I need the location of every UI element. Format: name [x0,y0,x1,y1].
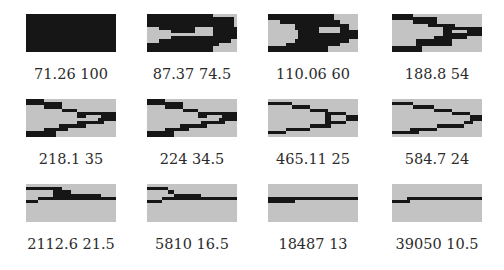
material-block [268,197,295,203]
figure-panel: 224 34.5 [141,99,261,185]
material-block [62,197,101,200]
material-block [213,17,234,20]
figure-panel: 87.37 74.5 [141,14,261,100]
material-block [26,131,56,137]
material-block [183,109,198,112]
material-block [443,33,482,36]
material-block [62,190,71,193]
material-block [44,102,62,108]
material-block [280,20,340,23]
panel-caption: 110.06 60 [252,66,374,82]
material-block [101,197,116,200]
design-domain [26,184,116,222]
material-block [268,131,286,134]
material-block [147,200,162,203]
design-domain [392,14,482,52]
material-block [392,46,422,52]
design-domain [268,99,358,137]
void-hole [159,30,171,40]
figure-panel: 5810 16.5 [141,184,261,270]
material-block [295,197,358,200]
figure-panel: 71.26 100 [20,14,140,100]
panel-caption: 39050 10.5 [376,236,498,252]
material-block [325,112,331,125]
material-block [286,43,340,46]
design-domain [147,14,237,52]
panel-caption: 2112.6 21.5 [10,236,132,252]
figure-panel: 2112.6 21.5 [20,184,140,270]
figure-panel: 218.1 35 [20,99,140,185]
void-hole [86,115,101,118]
material-block [392,200,407,203]
figure-panel: 584.7 24 [386,99,504,185]
figure-panel: 465.11 25 [262,99,382,185]
material-block [44,128,68,131]
material-block [174,194,201,197]
material-block [38,197,62,200]
figure-panel: 39050 10.5 [386,184,504,270]
material-block [413,105,434,108]
material-block [410,128,437,131]
material-block [59,124,86,127]
material-block [180,124,207,127]
panel-caption: 188.8 54 [376,66,498,82]
panel-caption: 218.1 35 [10,151,132,167]
material-block [268,14,334,20]
design-domain [26,99,116,137]
material-block [268,102,292,105]
design-domain [147,99,237,137]
material-block [147,46,213,52]
material-block [331,121,346,124]
material-block [470,115,482,121]
panel-caption: 18487 13 [252,236,374,252]
design-domain [268,14,358,52]
panel-caption: 71.26 100 [10,66,132,82]
material-block [62,109,77,112]
material-block [53,194,101,197]
material-block [310,109,328,112]
void-hole [195,27,213,33]
design-domain [392,99,482,137]
material-block [295,39,349,42]
topology-figure: 71.26 10087.37 74.5110.06 60188.8 54218.… [0,0,504,270]
void-hole [319,27,340,33]
panel-caption: 5810 16.5 [131,236,253,252]
design-domain [392,184,482,222]
void-hole [452,30,467,33]
material-block [159,27,195,30]
material-block [147,14,213,20]
material-block [310,124,331,127]
material-block [147,187,168,190]
material-block [410,197,482,200]
material-block [434,109,452,112]
material-block [201,121,225,124]
material-block [286,128,310,131]
material-block [464,121,473,124]
figure-panel: 18487 13 [262,184,382,270]
material-block [165,102,183,108]
material-block [407,197,410,203]
material-block [392,131,419,134]
material-block [26,99,44,105]
void-hole [147,27,159,43]
material-block [213,30,237,36]
material-block [413,17,437,23]
material-block [392,102,413,105]
material-block [452,112,470,115]
void-hole [219,43,237,53]
material-block [26,14,116,52]
material-block [165,128,189,131]
design-domain [268,184,358,222]
panel-caption: 465.11 25 [252,151,374,167]
material-block [26,187,53,190]
figure-panel: 188.8 54 [386,14,504,100]
design-domain [26,14,116,52]
material-block [434,36,467,39]
material-block [416,39,452,45]
material-block [292,105,310,108]
material-block [162,197,174,200]
material-block [174,197,237,200]
material-block [180,20,234,26]
material-block [219,39,231,42]
material-block [213,27,237,30]
